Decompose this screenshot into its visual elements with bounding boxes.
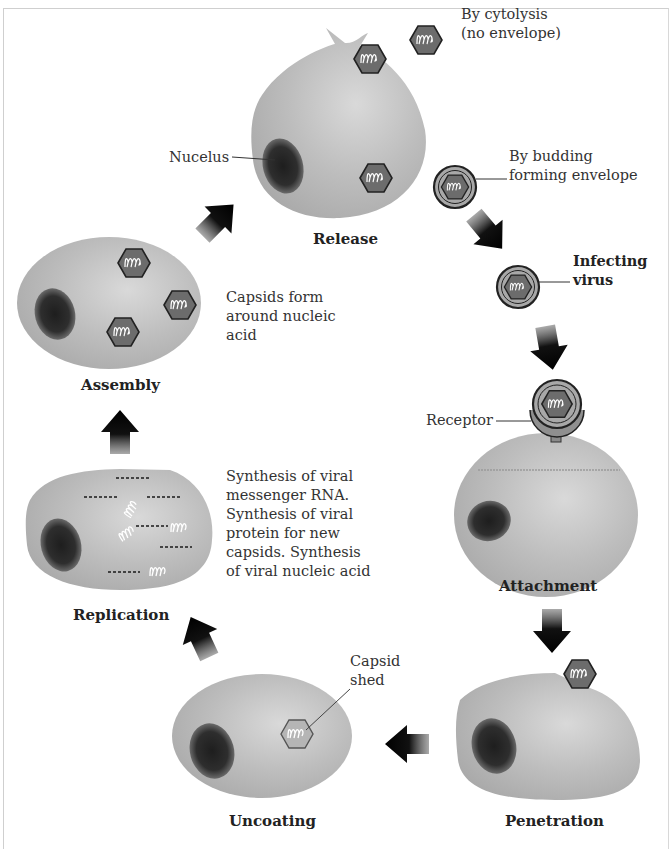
- penetration-cell: [456, 660, 640, 800]
- assembly-cell: [17, 237, 201, 369]
- arrow-icon: [533, 609, 571, 653]
- budding-label: By budding forming envelope: [509, 147, 638, 185]
- released-capsid-icon: [410, 26, 442, 54]
- arrow-icon: [189, 191, 247, 249]
- released-capsid-icon: [354, 45, 386, 73]
- capsid-shed-label: Capsid shed: [350, 652, 400, 690]
- stage-release-label: Release: [313, 230, 378, 248]
- stage-attachment-label: Attachment: [499, 577, 597, 595]
- capsid-icon: [107, 318, 139, 346]
- capsid-icon: [360, 164, 392, 192]
- cytolysis-label: By cytolysis (no envelope): [461, 5, 561, 43]
- capsid-icon: [164, 291, 196, 319]
- stage-penetration-label: Penetration: [505, 812, 604, 830]
- viral-cycle-diagram: [0, 0, 672, 849]
- infecting-virus-icon: [497, 266, 539, 308]
- arrow-icon: [385, 725, 429, 763]
- arrow-icon: [526, 323, 571, 373]
- stage-assembly-label: Assembly: [81, 376, 160, 394]
- uncoating-cell: [172, 674, 352, 798]
- stage-replication-label: Replication: [73, 606, 169, 624]
- infecting-virus-label: Infecting virus: [573, 251, 648, 289]
- assembly-note: Capsids form around nucleic acid: [226, 288, 336, 345]
- stage-uncoating-label: Uncoating: [229, 812, 316, 830]
- nucleus-label: Nucelus: [169, 148, 229, 167]
- capsid-icon: [564, 660, 596, 688]
- arrow-icon: [101, 410, 139, 454]
- arrow-icon: [173, 609, 226, 665]
- receptor-label: Receptor: [426, 411, 493, 430]
- shed-capsid-icon: [281, 720, 313, 748]
- budding-virus-icon: [434, 166, 476, 208]
- replication-note: Synthesis of viral messenger RNA. Synthe…: [226, 467, 370, 581]
- replication-cell: [26, 469, 213, 590]
- arrow-icon: [459, 203, 516, 261]
- release-cell: [251, 28, 426, 218]
- capsid-icon: [118, 249, 150, 277]
